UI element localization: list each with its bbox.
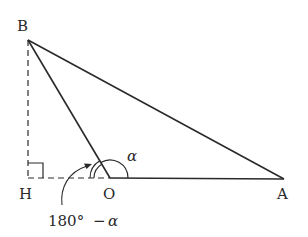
label-B: B — [17, 17, 28, 35]
label-O: O — [103, 185, 115, 203]
label-alpha: α — [127, 147, 137, 165]
angle-supplement-arc-outer — [90, 161, 100, 178]
geometry-diagram: B H O A α 180° − α — [0, 0, 308, 237]
label-supplement-number: 180° — [48, 212, 84, 230]
label-H: H — [19, 185, 32, 203]
angle-supplement-arc-inner — [94, 164, 102, 178]
pointer-arrow-curve — [62, 166, 87, 205]
segment-OA — [110, 178, 284, 179]
segment-BO — [28, 40, 110, 178]
segment-BA — [28, 40, 284, 179]
label-supplement-minus: − — [93, 212, 106, 230]
right-angle-marker — [28, 163, 43, 178]
label-A: A — [276, 185, 288, 203]
label-supplement-alpha: α — [108, 212, 118, 230]
